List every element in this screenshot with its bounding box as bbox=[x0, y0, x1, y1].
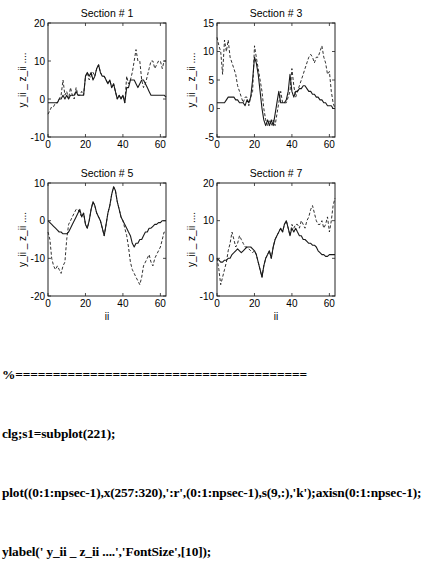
y-tick-label: 10 bbox=[203, 215, 215, 226]
x-tick-label: 0 bbox=[45, 298, 51, 309]
chart-title: Section # 5 bbox=[81, 167, 134, 179]
x-tick-label: 60 bbox=[155, 298, 167, 309]
dashed-series-line bbox=[48, 50, 166, 115]
y-axis-label: y_ii _ z_ii .... bbox=[17, 212, 28, 267]
x-tick-label: 40 bbox=[117, 139, 129, 150]
subplot-figure: Section # 10204060-1001020y_ii _ z_ii ..… bbox=[0, 0, 428, 320]
x-tick-label: 40 bbox=[117, 298, 129, 309]
y-axis-label: y_ii _ z_ii .... bbox=[17, 52, 28, 107]
solid-series-line bbox=[48, 187, 166, 247]
chart-title: Section # 3 bbox=[250, 7, 303, 19]
matlab-code-listing: %=======================================… bbox=[2, 326, 428, 564]
dashed-series-line bbox=[217, 198, 335, 285]
dashed-series-line bbox=[48, 187, 166, 285]
subplot-4: Section # 70204060-1001020y_ii _ z_ii ..… bbox=[186, 167, 335, 320]
x-axis-label: ii bbox=[105, 311, 109, 320]
subplot-3: Section # 50204060-20-10010y_ii _ z_ii .… bbox=[17, 167, 166, 320]
solid-series-line bbox=[217, 57, 335, 125]
y-tick-label: 0 bbox=[39, 215, 45, 226]
chart-title: Section # 1 bbox=[81, 7, 134, 19]
subplot-2: Section # 30204060-5051015y_ii _ z_ii ..… bbox=[186, 7, 335, 150]
y-tick-label: -10 bbox=[31, 132, 46, 143]
x-tick-label: 60 bbox=[324, 139, 336, 150]
y-tick-label: -10 bbox=[31, 253, 46, 264]
y-tick-label: 20 bbox=[203, 178, 215, 189]
x-tick-label: 0 bbox=[214, 139, 220, 150]
x-tick-label: 40 bbox=[286, 139, 298, 150]
y-tick-label: -5 bbox=[205, 132, 214, 143]
axes-box bbox=[48, 23, 166, 137]
chart-title: Section # 7 bbox=[250, 167, 303, 179]
y-tick-label: 10 bbox=[34, 56, 46, 67]
code-line: %======================================= bbox=[2, 365, 428, 385]
x-tick-label: 40 bbox=[286, 298, 298, 309]
solid-series-line bbox=[217, 221, 335, 278]
y-tick-label: -20 bbox=[31, 291, 46, 302]
y-tick-label: 10 bbox=[34, 178, 46, 189]
x-tick-label: 0 bbox=[214, 298, 220, 309]
x-axis-label: ii bbox=[274, 311, 278, 320]
y-tick-label: 15 bbox=[203, 18, 215, 29]
y-tick-label: 20 bbox=[34, 18, 46, 29]
x-tick-label: 20 bbox=[249, 139, 261, 150]
y-tick-label: 0 bbox=[39, 94, 45, 105]
subplot-1: Section # 10204060-1001020y_ii _ z_ii ..… bbox=[17, 7, 166, 150]
x-tick-label: 60 bbox=[155, 139, 167, 150]
y-tick-label: -10 bbox=[200, 291, 215, 302]
code-line: plot((0:1:npsec-1),x(257:320),':r',(0:1:… bbox=[2, 483, 428, 503]
axes-box bbox=[48, 183, 166, 296]
x-tick-label: 60 bbox=[324, 298, 336, 309]
x-tick-label: 20 bbox=[80, 298, 92, 309]
y-tick-label: 0 bbox=[208, 103, 214, 114]
y-tick-label: 0 bbox=[208, 253, 214, 264]
solid-series-line bbox=[48, 65, 166, 103]
code-line: ylabel(' y_ii _ z_ii ....','FontSize',[1… bbox=[2, 542, 428, 562]
x-tick-label: 20 bbox=[249, 298, 261, 309]
dashed-series-line bbox=[217, 37, 335, 125]
x-tick-label: 0 bbox=[45, 139, 51, 150]
axes-box bbox=[217, 183, 335, 296]
y-tick-label: 5 bbox=[208, 75, 214, 86]
code-line: clg;s1=subplot(221); bbox=[2, 424, 428, 444]
x-tick-label: 20 bbox=[80, 139, 92, 150]
y-tick-label: 10 bbox=[203, 46, 215, 57]
y-axis-label: y_ii _ z_ii .... bbox=[186, 212, 197, 267]
y-axis-label: y_ii _ z_ii .... bbox=[186, 52, 197, 107]
